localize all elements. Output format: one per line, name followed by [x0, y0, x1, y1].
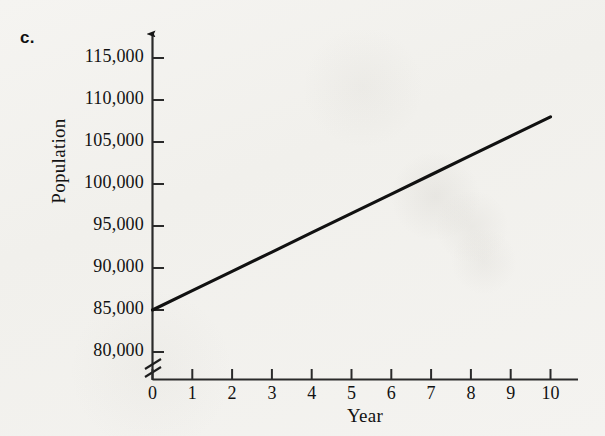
- x-tick-label: 6: [371, 383, 411, 404]
- y-tick-label: 105,000: [38, 130, 144, 151]
- chart-figure: c. Population Year 80,00085,00090,00095,…: [0, 0, 605, 436]
- x-tick-label: 7: [411, 383, 451, 404]
- y-tick-label: 95,000: [38, 214, 144, 235]
- x-tick-label: 3: [252, 383, 292, 404]
- x-tick-label: 2: [212, 383, 252, 404]
- x-tick-label: 8: [451, 383, 491, 404]
- x-tick-label: 9: [491, 383, 531, 404]
- y-tick-label: 100,000: [38, 172, 144, 193]
- y-tick-label: 85,000: [38, 298, 144, 319]
- y-tick-label: 80,000: [38, 340, 144, 361]
- x-tick-label: 4: [292, 383, 332, 404]
- y-tick-label: 110,000: [38, 88, 144, 109]
- y-tick-label: 90,000: [38, 256, 144, 277]
- x-tick-label: 1: [172, 383, 212, 404]
- x-tick-marks: [153, 369, 551, 380]
- x-tick-label: 0: [133, 383, 173, 404]
- data-series-line: [153, 117, 551, 310]
- x-tick-label: 5: [332, 383, 372, 404]
- y-tick-label: 115,000: [38, 46, 144, 67]
- x-tick-label: 10: [531, 383, 571, 404]
